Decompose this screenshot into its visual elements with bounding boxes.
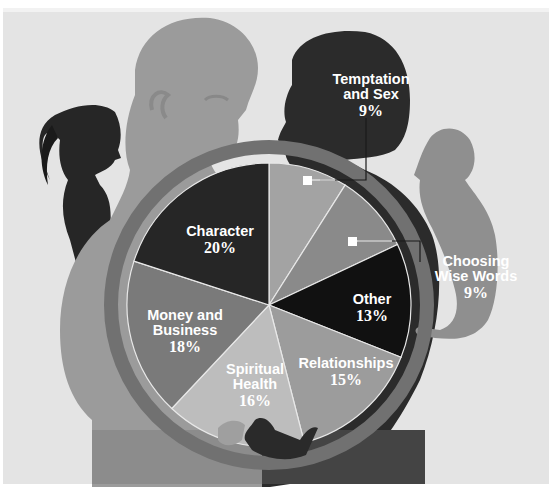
label-spiritual-health: Spiritual Health 16% [210, 362, 300, 410]
label-other: Other 13% [322, 292, 422, 325]
callout-marker-choosing [348, 237, 357, 246]
label-character: Character 20% [170, 224, 270, 257]
label-money-and-business: Money and Business 18% [130, 308, 240, 356]
pie-chart-illustration: Temptation and Sex 9% Choosing Wise Word… [0, 0, 552, 487]
label-relationships: Relationships 15% [286, 356, 406, 389]
family-silhouette-artwork [0, 0, 552, 487]
label-choosing-wise-words: Choosing Wise Words 9% [416, 254, 536, 302]
callout-marker-temptation [303, 176, 312, 185]
label-temptation-and-sex: Temptation and Sex 9% [316, 72, 426, 120]
